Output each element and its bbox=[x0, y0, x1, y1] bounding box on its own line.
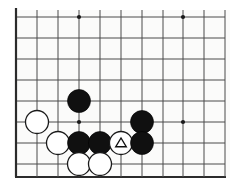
stone-black-row6-b[interactable] bbox=[89, 132, 112, 155]
black-stone[interactable] bbox=[68, 132, 91, 155]
black-stone[interactable] bbox=[89, 132, 112, 155]
black-stone[interactable] bbox=[68, 90, 91, 113]
white-stone[interactable] bbox=[47, 132, 70, 155]
stone-white-row7-b[interactable] bbox=[89, 153, 112, 176]
star-point-bottom-left bbox=[77, 120, 81, 124]
white-stone[interactable] bbox=[89, 153, 112, 176]
star-point-top-right bbox=[181, 15, 185, 19]
white-stone[interactable] bbox=[68, 153, 91, 176]
stone-black-row6-a[interactable] bbox=[68, 132, 91, 155]
stone-black-right-upper[interactable] bbox=[131, 111, 154, 134]
stone-black-row6-c[interactable] bbox=[131, 132, 154, 155]
stone-black-d-top[interactable] bbox=[68, 90, 91, 113]
black-stone[interactable] bbox=[131, 132, 154, 155]
white-stone[interactable] bbox=[26, 111, 49, 134]
star-point-bottom-right bbox=[181, 120, 185, 124]
white-stone[interactable] bbox=[110, 132, 133, 155]
stone-white-row6-a[interactable] bbox=[47, 132, 70, 155]
stone-white-marked-triangle[interactable] bbox=[110, 132, 133, 155]
stone-white-left[interactable] bbox=[26, 111, 49, 134]
go-board[interactable] bbox=[0, 0, 242, 191]
star-point-top-left bbox=[77, 15, 81, 19]
go-board-canvas[interactable] bbox=[0, 0, 242, 191]
go-diagram-screenshot bbox=[0, 0, 242, 191]
black-stone[interactable] bbox=[131, 111, 154, 134]
stone-white-row7-a[interactable] bbox=[68, 153, 91, 176]
